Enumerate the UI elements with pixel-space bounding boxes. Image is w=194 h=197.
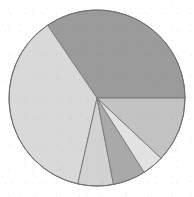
pie-chart-svg xyxy=(0,0,194,197)
pie-slice-group xyxy=(9,10,185,186)
pie-chart-figure xyxy=(0,0,194,197)
